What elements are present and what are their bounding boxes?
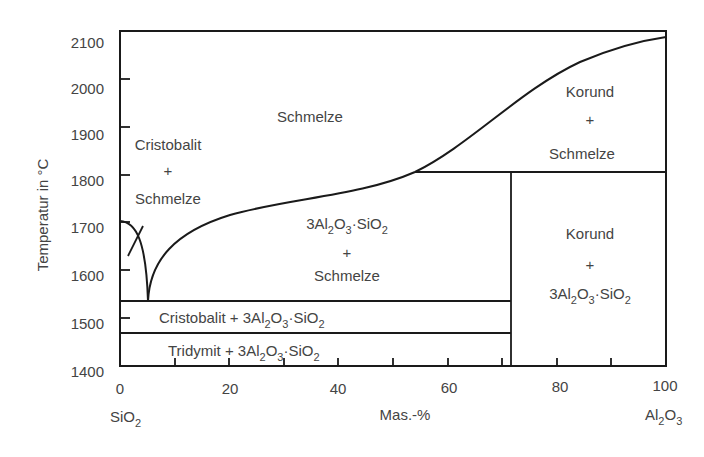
svg-text:2000: 2000 [71,80,104,97]
svg-text:60: 60 [441,379,458,396]
y-axis-ticks [120,79,130,318]
region-mullite-schmelze: 3Al2O3·SiO2 + Schmelze [306,215,388,284]
svg-text:3Al2O3·SiO2: 3Al2O3·SiO2 [549,285,631,306]
region-cristobalit-mullite: Cristobalit + 3Al2O3·SiO2 [159,309,325,330]
svg-text:1600: 1600 [71,267,104,284]
region-schmelze: Schmelze [277,108,343,125]
svg-text:1800: 1800 [71,172,104,189]
svg-text:20: 20 [222,380,239,397]
svg-text:+: + [164,162,173,179]
svg-text:Schmelze: Schmelze [549,145,615,162]
svg-text:100: 100 [652,377,677,394]
svg-text:1900: 1900 [71,126,104,143]
y-tick-labels: 2100 2000 1900 1800 1700 1600 1500 1400 [71,34,104,380]
x-axis-label: Mas.-% [380,406,431,423]
x-axis-ticks [175,358,611,366]
svg-text:+: + [586,111,595,128]
region-korund-schmelze: Korund + Schmelze [549,83,615,162]
svg-text:+: + [586,256,595,273]
svg-text:2100: 2100 [71,34,104,51]
region-cristobalit-schmelze: Cristobalit + Schmelze [135,136,203,207]
svg-text:3Al2O3·SiO2: 3Al2O3·SiO2 [306,215,388,236]
region-tridymit-mullite: Tridymit + 3Al2O3·SiO2 [168,342,320,363]
svg-text:Schmelze: Schmelze [135,190,201,207]
phase-diagram: 2100 2000 1900 1800 1700 1600 1500 1400 … [0,0,704,457]
svg-text:0: 0 [116,380,124,397]
svg-text:1700: 1700 [71,219,104,236]
svg-text:Cristobalit: Cristobalit [135,136,203,153]
y-axis-label: Temperatur in °C [34,158,51,271]
svg-text:40: 40 [330,380,347,397]
liquidus-sio2-curve [120,221,148,301]
x-tick-labels: 0 20 40 60 80 100 [116,377,678,397]
svg-text:Korund: Korund [566,225,614,242]
svg-text:1400: 1400 [71,363,104,380]
sio2-component-label: SiO2 [110,408,141,429]
svg-text:Schmelze: Schmelze [314,267,380,284]
al2o3-component-label: Al2O3 [645,406,682,427]
svg-text:+: + [343,244,352,261]
svg-text:80: 80 [552,378,569,395]
svg-text:1500: 1500 [71,315,104,332]
svg-text:Korund: Korund [566,83,614,100]
region-korund-mullite: Korund + 3Al2O3·SiO2 [549,225,631,306]
